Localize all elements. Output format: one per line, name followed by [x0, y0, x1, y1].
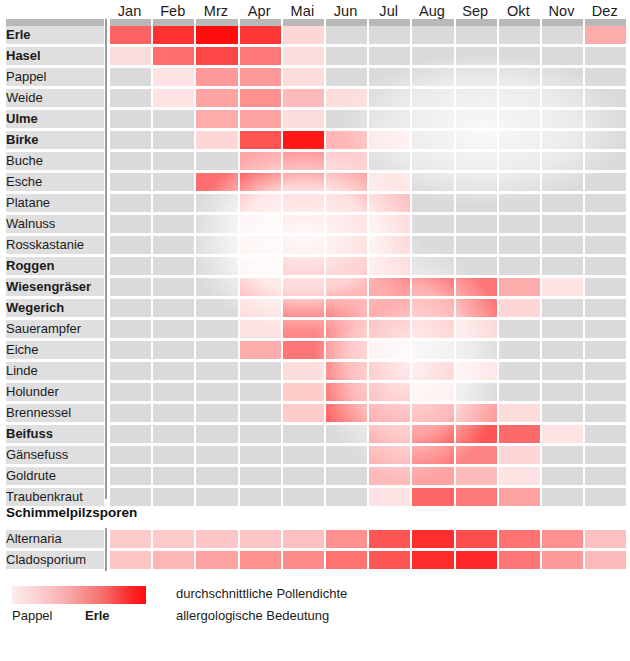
empty-cell	[412, 68, 453, 86]
empty-cell	[542, 152, 583, 170]
heat-cell	[369, 299, 410, 317]
heat-cell	[240, 89, 281, 107]
empty-cell	[110, 425, 151, 443]
header-band-cell	[456, 19, 497, 26]
empty-cell	[196, 236, 237, 254]
heat-cell	[196, 89, 237, 107]
heat-cell	[369, 530, 410, 548]
heat-cell	[412, 551, 453, 569]
empty-cell	[240, 425, 281, 443]
empty-cell	[456, 47, 497, 65]
empty-cell	[456, 26, 497, 44]
heat-cell	[283, 194, 324, 212]
row-label-sauerampfer: Sauerampfer	[0, 318, 104, 339]
empty-cell	[585, 299, 626, 317]
empty-cell	[196, 278, 237, 296]
heat-cell	[110, 26, 151, 44]
empty-cell	[499, 89, 540, 107]
heat-cell	[456, 362, 497, 380]
heat-cell	[110, 551, 151, 569]
heat-cell	[283, 215, 324, 233]
heat-cell	[542, 425, 583, 443]
header-band-cell	[412, 19, 453, 26]
empty-cell	[240, 362, 281, 380]
heat-cell	[326, 152, 367, 170]
empty-cell	[240, 488, 281, 506]
legend-gradient-bar	[12, 586, 146, 604]
heat-cell	[283, 341, 324, 359]
empty-cell	[456, 194, 497, 212]
empty-cell	[153, 173, 194, 191]
heat-cell	[240, 194, 281, 212]
heat-cell	[412, 446, 453, 464]
empty-cell	[412, 236, 453, 254]
empty-cell	[153, 425, 194, 443]
row-label-esche: Esche	[0, 171, 104, 192]
heat-cell	[110, 530, 151, 548]
empty-cell	[110, 488, 151, 506]
header-band-cell	[326, 19, 367, 26]
empty-cell	[110, 341, 151, 359]
empty-cell	[326, 110, 367, 128]
empty-cell	[499, 173, 540, 191]
heat-cell	[283, 530, 324, 548]
heat-cell	[326, 383, 367, 401]
row-label-eiche: Eiche	[0, 339, 104, 360]
empty-cell	[196, 446, 237, 464]
empty-cell	[153, 446, 194, 464]
empty-cell	[110, 110, 151, 128]
empty-cell	[196, 215, 237, 233]
heat-cell	[369, 362, 410, 380]
empty-cell	[585, 47, 626, 65]
heat-cell	[283, 299, 324, 317]
heat-cell	[326, 173, 367, 191]
heat-cell	[283, 110, 324, 128]
heat-cell	[283, 383, 324, 401]
empty-cell	[542, 68, 583, 86]
empty-cell	[283, 425, 324, 443]
empty-cell	[585, 341, 626, 359]
empty-cell	[585, 278, 626, 296]
empty-cell	[542, 131, 583, 149]
row-label-goldrute: Goldrute	[0, 465, 104, 486]
empty-cell	[240, 446, 281, 464]
empty-cell	[456, 383, 497, 401]
heat-cell	[369, 488, 410, 506]
empty-cell	[153, 110, 194, 128]
empty-cell	[153, 467, 194, 485]
empty-cell	[412, 215, 453, 233]
empty-cell	[542, 194, 583, 212]
legend-label-erle: Erle	[85, 608, 110, 623]
heat-cell	[456, 299, 497, 317]
heat-cell	[499, 278, 540, 296]
heat-cell	[499, 467, 540, 485]
empty-cell	[542, 404, 583, 422]
empty-cell	[585, 404, 626, 422]
heat-cell	[283, 362, 324, 380]
heat-cell	[240, 530, 281, 548]
empty-cell	[196, 383, 237, 401]
empty-cell	[542, 236, 583, 254]
header-band-cell	[369, 19, 410, 26]
empty-cell	[499, 194, 540, 212]
heat-cell	[369, 425, 410, 443]
heat-cell	[456, 488, 497, 506]
empty-cell	[196, 362, 237, 380]
heat-cell	[456, 278, 497, 296]
heat-cell	[240, 215, 281, 233]
empty-cell	[499, 68, 540, 86]
heat-cell	[283, 68, 324, 86]
heat-cell	[499, 446, 540, 464]
heat-cell	[283, 173, 324, 191]
empty-cell	[542, 173, 583, 191]
empty-cell	[412, 257, 453, 275]
empty-cell	[153, 383, 194, 401]
heat-cell	[196, 530, 237, 548]
empty-cell	[499, 236, 540, 254]
empty-cell	[456, 89, 497, 107]
heat-cell	[369, 131, 410, 149]
heat-cell	[542, 530, 583, 548]
heat-cell	[240, 341, 281, 359]
empty-cell	[110, 404, 151, 422]
header-band-cell	[283, 19, 324, 26]
